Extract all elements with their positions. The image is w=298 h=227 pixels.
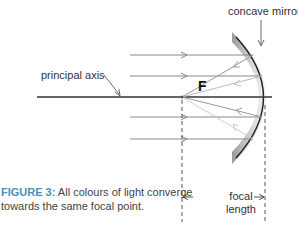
focal-length-label: focal length [226,190,256,216]
principal-axis-label: principal axis [41,69,105,81]
caption-line2: towards the same focal point. [1,199,192,213]
focal-point-label: F [198,78,207,94]
focal-length-line1: focal [226,190,256,203]
caption-line1: All colours of light converge [55,186,192,198]
figure-caption: FIGURE 3: All colours of light converge … [1,185,192,213]
concave-mirror-label: concave mirror [228,5,298,17]
concave-mirror [232,32,266,164]
focal-length-line2: length [226,203,256,216]
axis-pointer [104,75,119,94]
figure-number: FIGURE 3: [1,186,55,198]
